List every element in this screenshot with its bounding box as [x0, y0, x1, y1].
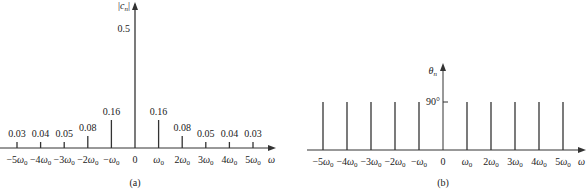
x-axis-label: ω	[578, 156, 585, 167]
value-label: 0.08	[79, 122, 97, 133]
x-tick-label: −3ω0	[54, 154, 76, 167]
x-tick-label: 4ω0	[531, 156, 547, 169]
x-tick-label: −3ω0	[360, 156, 382, 169]
x-tick-label: ω0	[153, 154, 164, 167]
value-label: 0.16	[150, 106, 168, 117]
x-tick-label: 5ω0	[245, 154, 261, 167]
value-label: 0.08	[173, 122, 191, 133]
x-tick-label: 5ω0	[555, 156, 571, 169]
value-label: 0.05	[197, 128, 215, 139]
y-tick-label: 90°	[426, 96, 440, 107]
x-tick-label: 0	[441, 156, 446, 167]
value-label: 0.5	[118, 23, 131, 34]
x-tick-label: −5ω0	[6, 154, 28, 167]
x-tick-label: −5ω0	[312, 156, 334, 169]
y-axis-arrow-icon	[440, 63, 446, 71]
x-tick-label: 3ω0	[507, 156, 523, 169]
y-axis-label: |cn|	[118, 0, 130, 13]
x-tick-label: −2ω0	[384, 156, 406, 169]
value-label: 0.16	[103, 106, 121, 117]
caption-b: (b)	[437, 177, 449, 189]
x-tick-label: 0	[133, 154, 138, 165]
x-axis-arrow-icon	[578, 147, 586, 153]
x-tick-label: −ω0	[411, 156, 428, 169]
x-tick-label: −4ω0	[30, 154, 52, 167]
x-tick-label: 2ω0	[174, 154, 190, 167]
phase-spectrum-chart: 90°θn−5ω0−4ω0−3ω0−2ω0−ω00ω02ω03ω04ω05ω0ω…	[307, 63, 586, 189]
value-label: 0.03	[244, 128, 262, 139]
x-tick-label: −4ω0	[336, 156, 358, 169]
x-tick-label: −2ω0	[77, 154, 99, 167]
x-tick-label: −ω0	[103, 154, 120, 167]
x-tick-label: ω0	[462, 156, 473, 169]
value-label: 0.04	[221, 128, 239, 139]
x-axis-arrow-icon	[268, 145, 276, 151]
x-tick-label: 3ω0	[198, 154, 214, 167]
x-tick-label: 4ω0	[222, 154, 238, 167]
value-label: 0.03	[8, 128, 26, 139]
value-label: 0.05	[55, 128, 73, 139]
x-tick-label: 2ω0	[483, 156, 499, 169]
value-label: 0.04	[32, 128, 50, 139]
x-axis-label: ω	[268, 154, 275, 165]
fourier-spectrum-figure: 0.03−5ω00.04−4ω00.05−3ω00.08−2ω00.16−ω00…	[0, 0, 586, 190]
y-axis-label: θn	[429, 65, 438, 78]
caption-a: (a)	[129, 177, 140, 189]
amplitude-spectrum-chart: 0.03−5ω00.04−4ω00.05−3ω00.08−2ω00.16−ω00…	[0, 0, 276, 189]
